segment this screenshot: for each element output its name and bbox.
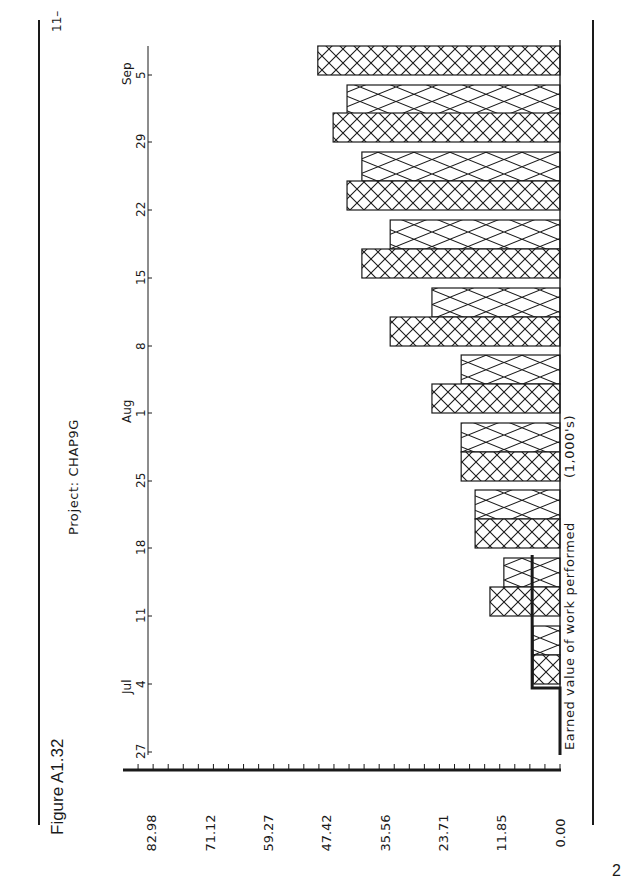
bar-light: [347, 85, 560, 114]
bar-light: [533, 626, 560, 655]
bar-dense: [432, 384, 560, 413]
bar-dense: [362, 249, 560, 278]
month-label: Aug: [120, 400, 134, 423]
date-tick-label: 5: [134, 71, 148, 79]
date-tick-label: 29: [134, 134, 148, 149]
value-tick-label: 23.71: [436, 814, 451, 851]
bar-dense: [475, 519, 560, 548]
value-axis: 0.0011.8523.7135.5647.4259.2771.1282.98: [123, 764, 568, 852]
bar-dense: [533, 655, 560, 684]
bar-light: [461, 355, 560, 384]
figure-page: Figure A1.32 27411182518152229511–JulAug…: [0, 0, 627, 876]
month-label: Jul: [120, 680, 134, 695]
date-tick-label: 4: [134, 680, 148, 688]
date-tick-label: 11: [134, 608, 148, 623]
bar-light: [362, 152, 560, 181]
value-tick-label: 0.00: [553, 819, 568, 848]
bar-dense: [333, 113, 560, 142]
bar-dense: [347, 181, 560, 210]
value-tick-label: 71.12: [203, 814, 218, 851]
bar-dense: [390, 317, 560, 346]
bar-dense: [490, 587, 560, 616]
bar-light: [390, 220, 560, 249]
bar-dense: [461, 452, 560, 481]
date-tick-label: 8: [134, 342, 148, 350]
value-tick-label: 47.42: [319, 814, 334, 851]
date-tick-label: 25: [134, 473, 148, 488]
earned-value-annotation: Earned value of work performed: [562, 522, 577, 750]
value-tick-label: 82.98: [144, 814, 159, 851]
bar-light: [475, 490, 560, 519]
page-number: 2: [612, 862, 621, 876]
bar-chart: 27411182518152229511–JulAugSep 0.0011.85…: [0, 0, 627, 876]
date-tick-label: 15: [134, 270, 148, 285]
bars: [318, 40, 560, 755]
date-tick-label: 27: [134, 744, 148, 759]
date-axis: 27411182518152229511–JulAugSep: [50, 11, 152, 759]
date-tick-label: 11–: [50, 11, 64, 32]
month-label: Sep: [120, 62, 134, 85]
bar-dense: [318, 46, 560, 75]
value-tick-label: 59.27: [261, 814, 276, 851]
value-tick-label: 35.56: [378, 814, 393, 851]
date-tick-label: 18: [134, 540, 148, 555]
value-tick-label: 11.85: [494, 814, 509, 851]
bar-light: [461, 423, 560, 452]
bar-light: [432, 288, 560, 317]
chart-title: Project: CHAP9G: [66, 419, 81, 535]
units-label: (1,000's): [562, 415, 577, 478]
date-tick-label: 1: [134, 409, 148, 417]
date-tick-label: 22: [134, 202, 148, 217]
